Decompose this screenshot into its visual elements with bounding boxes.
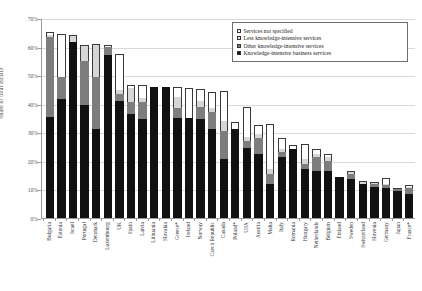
bar-segment — [173, 97, 181, 108]
stacked-bar[interactable] — [393, 188, 401, 218]
stacked-bar[interactable] — [370, 182, 378, 218]
x-axis-tick-mark — [194, 218, 195, 221]
x-axis-tick-mark — [206, 218, 207, 221]
bar-segment — [347, 179, 355, 218]
x-axis-tick-label: Israel — [69, 222, 75, 234]
bar-segment — [312, 157, 320, 171]
stacked-bar[interactable] — [150, 87, 158, 218]
stacked-bar[interactable] — [324, 154, 332, 218]
bar-slot — [172, 19, 184, 218]
stacked-bar[interactable] — [347, 171, 355, 218]
stacked-bar[interactable] — [138, 85, 146, 218]
bar-segment — [231, 129, 239, 218]
legend-item[interactable]: Less knowledge-intensive services — [237, 35, 403, 41]
legend-swatch-icon — [237, 51, 241, 55]
y-axis-tick-label: 10% — [0, 187, 38, 193]
bar-segment — [57, 77, 65, 98]
stacked-bar[interactable] — [92, 44, 100, 218]
bar-segment — [173, 118, 181, 218]
y-axis-tick-mark — [38, 219, 41, 220]
x-label-slot: USA — [241, 221, 253, 289]
x-axis-tick-label: Malta — [267, 222, 273, 235]
stacked-bar[interactable] — [104, 45, 112, 218]
bar-segment — [69, 35, 77, 42]
bar-slot — [56, 19, 68, 218]
x-axis-tick-label: Finland — [336, 222, 342, 239]
stacked-bar[interactable] — [243, 107, 251, 218]
bar-segment — [104, 55, 112, 218]
stacked-bar[interactable] — [57, 34, 65, 218]
x-axis-tick-mark — [229, 218, 230, 221]
chart-container: 0%10%20%30%40%50%60%70% Share of total B… — [0, 0, 422, 291]
bar-segment — [185, 118, 193, 218]
bar-slot — [160, 19, 172, 218]
bar-segment — [231, 122, 239, 129]
stacked-bar[interactable] — [196, 89, 204, 218]
y-axis-title: Share of total BERD — [0, 68, 4, 119]
x-label-slot: France* — [403, 221, 415, 289]
x-axis-tick-mark — [148, 218, 149, 221]
stacked-bar[interactable] — [266, 124, 274, 218]
x-axis-tick-label: Latvia — [139, 222, 145, 236]
x-axis-labels: BulgariaEstoniaIsraelPortugalDenmarkLuxe… — [41, 221, 415, 289]
x-axis-tick-label: Sweden — [348, 222, 354, 239]
x-axis-tick-label: Canada — [220, 222, 226, 238]
bar-slot — [79, 19, 91, 218]
stacked-bar[interactable] — [312, 149, 320, 218]
stacked-bar[interactable] — [69, 35, 77, 218]
bar-segment — [370, 187, 378, 218]
x-axis-tick-label: Denmark — [92, 222, 98, 242]
bar-segment — [405, 194, 413, 218]
x-axis-tick-mark — [403, 218, 404, 221]
x-axis-tick-mark — [345, 218, 346, 221]
legend-item[interactable]: Services not specified — [237, 28, 403, 34]
bar-segment — [150, 87, 158, 218]
x-axis-tick-mark — [287, 218, 288, 221]
stacked-bar[interactable] — [127, 85, 135, 218]
stacked-bar[interactable] — [80, 45, 88, 218]
stacked-bar[interactable] — [231, 122, 239, 218]
x-axis-tick-label: Romania — [290, 222, 296, 241]
stacked-bar[interactable] — [185, 88, 193, 218]
legend-item[interactable]: Knowledge-intensive business services — [237, 50, 403, 56]
stacked-bar[interactable] — [46, 32, 54, 218]
bar-segment — [254, 125, 262, 134]
x-label-slot: Luxembourg — [101, 221, 113, 289]
legend-swatch-icon — [237, 44, 241, 48]
bar-segment — [220, 131, 228, 160]
bar-slot — [44, 19, 56, 218]
bar-segment — [115, 54, 123, 90]
stacked-bar[interactable] — [405, 185, 413, 218]
x-axis-tick-mark — [264, 218, 265, 221]
bar-segment — [243, 148, 251, 218]
x-axis-tick-label: Ireland — [185, 222, 191, 237]
legend-item[interactable]: Other knowledge-intensive services — [237, 43, 403, 49]
stacked-bar[interactable] — [359, 181, 367, 218]
x-label-slot: UK — [113, 221, 125, 289]
stacked-bar[interactable] — [335, 177, 343, 218]
stacked-bar[interactable] — [220, 91, 228, 218]
x-label-slot: Slovakia — [159, 221, 171, 289]
stacked-bar[interactable] — [289, 145, 297, 218]
x-label-slot: Germany — [380, 221, 392, 289]
stacked-bar[interactable] — [208, 92, 216, 218]
stacked-bar[interactable] — [254, 125, 262, 218]
x-label-slot: Lithuania — [148, 221, 160, 289]
stacked-bar[interactable] — [173, 87, 181, 218]
bar-segment — [301, 169, 309, 218]
bar-segment — [266, 174, 274, 184]
x-label-slot: Belgium — [322, 221, 334, 289]
stacked-bar[interactable] — [301, 144, 309, 218]
stacked-bar[interactable] — [115, 54, 123, 218]
x-axis-tick-label: Switzerland — [360, 222, 366, 248]
x-label-slot: Greece* — [171, 221, 183, 289]
stacked-bar[interactable] — [278, 138, 286, 218]
x-axis-tick-label: Japan — [395, 222, 401, 234]
bar-segment — [173, 87, 181, 97]
bar-segment — [382, 188, 390, 218]
bar-slot — [90, 19, 102, 218]
stacked-bar[interactable] — [162, 87, 170, 218]
x-label-slot: Netherlands — [310, 221, 322, 289]
bar-segment — [289, 149, 297, 218]
stacked-bar[interactable] — [382, 178, 390, 218]
